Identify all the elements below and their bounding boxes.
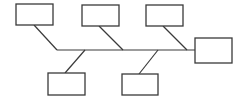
effect-head-box: [195, 38, 232, 63]
cause-box-2: [82, 5, 119, 26]
cause-box-1: [16, 4, 53, 25]
cause-bone-5: [139, 50, 158, 74]
cause-box-5: [122, 74, 158, 95]
cause-bone-2: [99, 26, 123, 50]
cause-bone-1: [34, 25, 57, 50]
cause-box-4: [48, 73, 85, 95]
fishbone-diagram: [0, 0, 248, 102]
cause-bone-4: [65, 50, 85, 73]
cause-bone-3: [163, 26, 187, 50]
cause-box-3: [146, 5, 183, 26]
